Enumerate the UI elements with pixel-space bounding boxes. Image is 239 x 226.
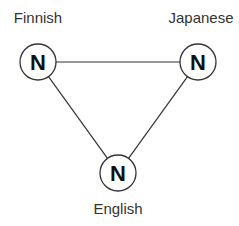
edge-japanese-english [129, 77, 188, 159]
language-triangle-diagram: NFinnishNJapaneseNEnglish [0, 0, 239, 226]
node-english: NEnglish [93, 155, 142, 217]
node-letter: N [30, 50, 46, 75]
node-japanese: NJapanese [168, 9, 233, 80]
node-letter: N [190, 50, 206, 75]
node-label: Finnish [14, 9, 62, 26]
edges [49, 62, 188, 158]
node-label: English [93, 200, 142, 217]
node-label: Japanese [168, 9, 233, 26]
node-finnish: NFinnish [14, 9, 62, 80]
node-letter: N [110, 161, 126, 186]
edge-finnish-english [49, 77, 108, 159]
nodes: NFinnishNJapaneseNEnglish [14, 9, 234, 217]
